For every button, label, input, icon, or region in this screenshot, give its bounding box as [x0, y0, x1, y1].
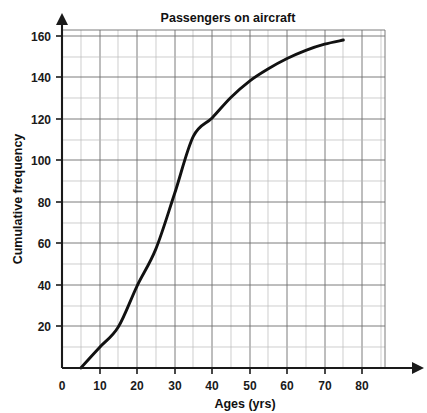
y-axis-title: Cumulative frequency	[11, 134, 25, 265]
y-tick-label-120: 120	[31, 113, 51, 127]
x-tick-label-50: 50	[243, 379, 257, 393]
x-tick-label-40: 40	[205, 379, 219, 393]
y-tick-label-40: 40	[38, 279, 52, 293]
x-tick-label-10: 10	[93, 379, 107, 393]
chart-title: Passengers on aircraft	[161, 11, 297, 25]
y-tick-label-140: 140	[31, 71, 51, 85]
y-tick-label-160: 160	[31, 30, 51, 44]
x-tick-label-80: 80	[355, 379, 369, 393]
x-tick-label-20: 20	[130, 379, 144, 393]
chart-canvas: Passengers on aircraft 20 40 60 80 100 1…	[0, 0, 427, 413]
x-tick-label-70: 70	[318, 379, 332, 393]
x-axis-arrowhead	[412, 362, 424, 374]
y-tick-label-80: 80	[38, 196, 52, 210]
x-tick-label-0: 0	[59, 379, 66, 393]
y-tick-label-60: 60	[38, 237, 52, 251]
y-tick-label-20: 20	[38, 320, 52, 334]
x-tick-label-60: 60	[280, 379, 294, 393]
plot-area-background	[62, 30, 385, 368]
x-axis-title: Ages (yrs)	[214, 397, 275, 411]
cumulative-frequency-chart: Passengers on aircraft 20 40 60 80 100 1…	[0, 0, 427, 413]
y-tick-label-100: 100	[31, 154, 51, 168]
y-axis-arrowhead	[56, 13, 68, 25]
x-tick-label-30: 30	[168, 379, 182, 393]
